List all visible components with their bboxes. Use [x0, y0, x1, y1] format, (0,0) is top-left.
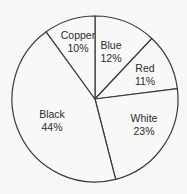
slice-label-blue-pct: 12%: [100, 52, 121, 64]
slice-label-copper-pct: 10%: [67, 42, 88, 54]
slice-label-blue-name: Blue: [100, 39, 121, 51]
slice-label-red-pct: 11%: [135, 75, 155, 87]
slice-label-white-pct: 23%: [133, 125, 154, 137]
pie-chart: Blue 12% Red 11% White 23% Black 44% Cop…: [0, 0, 187, 194]
slice-label-red-name: Red: [135, 62, 154, 74]
slice-label-white-name: White: [131, 112, 158, 124]
slice-label-black-name: Black: [39, 108, 65, 120]
slice-label-black-pct: 44%: [41, 121, 62, 133]
slice-label-copper-name: Copper: [61, 29, 96, 41]
